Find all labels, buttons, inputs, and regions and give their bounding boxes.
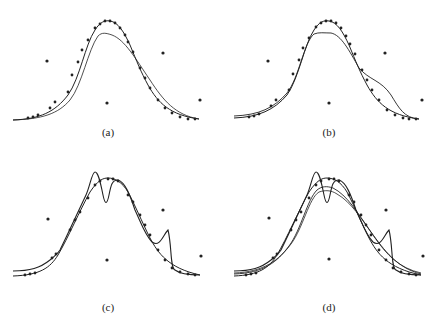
figure: (a) (b): [0, 0, 438, 327]
caption-b: (b): [309, 126, 349, 138]
control-points: [46, 208, 202, 261]
curve-approx: [13, 33, 199, 120]
caption-a: (a): [88, 126, 128, 138]
caption-c: (c): [88, 301, 128, 313]
caption-d: (d): [309, 301, 349, 313]
curve-shoulder: [234, 33, 419, 119]
control-points: [45, 51, 201, 104]
panel-d: (d): [219, 150, 438, 327]
curve-fitted: [13, 21, 199, 120]
curve-fitted: [234, 21, 419, 119]
control-points: [267, 208, 424, 260]
control-points: [266, 51, 423, 104]
panel-a: (a): [0, 0, 219, 150]
panel-b: (b): [219, 0, 438, 150]
panel-c: (c): [0, 150, 219, 327]
